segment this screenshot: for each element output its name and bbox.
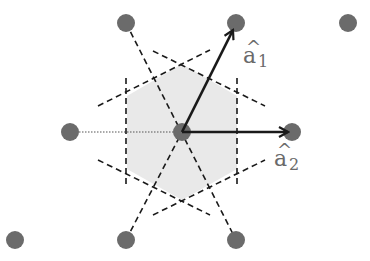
label-a1: ^ a 1 (243, 37, 268, 71)
lattice-point (117, 231, 135, 249)
lattice-point (227, 231, 245, 249)
label-a1-base: a (243, 43, 256, 68)
label-a2-sub: 2 (289, 155, 299, 174)
label-a2: ^ a 2 (274, 140, 299, 174)
lattice-point (117, 14, 135, 32)
label-a1-sub: 1 (258, 52, 268, 71)
lattice-diagram: ^ a 1 ^ a 2 (0, 0, 370, 261)
lattice-point (61, 123, 79, 141)
lattice-point (6, 231, 24, 249)
lattice-point (227, 14, 245, 32)
label-a2-base: a (274, 146, 287, 171)
lattice-point (339, 14, 357, 32)
